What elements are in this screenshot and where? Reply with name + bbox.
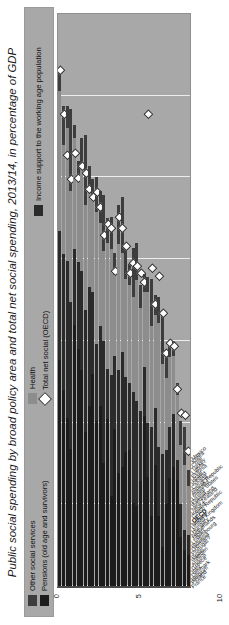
bar-segment — [139, 285, 142, 308]
bar-segment — [143, 292, 146, 367]
bar-segment — [176, 395, 179, 460]
bar-row — [106, 14, 109, 586]
bar-segment — [132, 392, 135, 503]
bar-segment — [66, 106, 69, 129]
bar-row — [124, 14, 127, 586]
bar-segment — [132, 297, 135, 392]
bar-segment — [176, 480, 179, 586]
bar-segment — [172, 356, 175, 415]
bar-segment — [183, 465, 186, 530]
bar-segment — [88, 287, 91, 406]
bar-segment — [161, 364, 164, 454]
bar-segment — [179, 504, 182, 537]
bar-segment — [102, 251, 105, 341]
bar-segment — [88, 406, 91, 586]
bar-segment — [102, 341, 105, 464]
bar-segment — [110, 375, 113, 496]
bar-segment — [135, 280, 138, 401]
bar-segment — [73, 325, 76, 586]
bar-row — [69, 14, 72, 586]
bar-segment — [124, 377, 127, 452]
bar-segment — [183, 428, 186, 466]
legend-diamond-icon — [38, 392, 52, 406]
bar-row — [165, 14, 168, 586]
bar-segment — [66, 261, 69, 418]
legend-item-total-net-social: Total net social (OECD) — [40, 311, 50, 404]
bar-segment — [121, 352, 124, 466]
category-axis: FranceFinlandBelgiumDenmarkItalyGreeceAu… — [190, 0, 229, 625]
bar-segment — [168, 357, 171, 427]
axis-tick-label: 0 — [52, 594, 61, 598]
bar-segment — [154, 315, 157, 408]
legend-item-income-support: Income support to the working age popula… — [34, 47, 43, 216]
bar-segment — [146, 423, 149, 477]
bar-segment — [62, 145, 65, 254]
bar-segment — [179, 537, 182, 586]
bar-row — [73, 14, 76, 586]
bar-segment — [165, 504, 168, 586]
bar-segment — [143, 416, 146, 586]
bar-segment — [106, 419, 109, 586]
bar-segment — [62, 390, 65, 586]
legend-swatch-icon — [28, 393, 37, 404]
bar-segment — [161, 547, 164, 586]
bar-segment — [150, 326, 153, 427]
bar-segment — [106, 369, 109, 420]
bar-segment — [95, 212, 98, 344]
bar-segment — [135, 401, 138, 506]
bar-segment — [117, 244, 120, 370]
bar-segment — [69, 449, 72, 586]
legend-item-other-social-services: Other social services — [28, 521, 37, 606]
bar-segment — [77, 181, 80, 263]
bar-row — [121, 14, 124, 586]
bar-row — [183, 14, 186, 586]
bar-segment — [157, 323, 160, 447]
legend-label: Income support to the working age popula… — [34, 47, 43, 201]
bar-segment — [95, 344, 98, 421]
bar-segment — [176, 460, 179, 480]
bar-segment — [121, 467, 124, 586]
chart-title: Public social spending by broad policy a… — [4, 0, 21, 625]
bar-segment — [84, 205, 87, 310]
bar-segment — [132, 503, 135, 586]
bar-segment — [168, 478, 171, 586]
bar-segment — [128, 450, 131, 586]
bar-segment — [117, 473, 120, 586]
legend-item-pensions: Pensions (old age and survivors) — [40, 480, 49, 606]
bar-segment — [139, 411, 142, 481]
bar-segment — [91, 194, 94, 292]
bar-segment — [91, 292, 94, 374]
bar-segment — [106, 243, 109, 369]
bar-segment — [84, 310, 87, 433]
bar-segment — [157, 297, 160, 323]
bar-row — [62, 14, 65, 586]
legend-swatch-icon — [34, 205, 43, 216]
bar-row — [128, 14, 131, 586]
bar-segment — [161, 454, 164, 547]
legend-label: Total net social (OECD) — [41, 311, 50, 390]
bar-segment — [146, 277, 149, 292]
bar-row — [132, 14, 135, 586]
legend-label: Health — [28, 367, 37, 389]
bar-segment — [165, 378, 168, 450]
bar-segment — [179, 421, 182, 446]
chart-canvas: Public social spending by broad policy a… — [0, 0, 229, 625]
bar-segment — [146, 477, 149, 586]
bar-segment — [154, 465, 157, 586]
bar-segment — [80, 163, 83, 271]
bar-row — [179, 14, 182, 586]
bar-segment — [172, 414, 175, 466]
axis-tick-label: 5 — [134, 594, 143, 598]
bar-segment — [80, 271, 83, 371]
legend-label: Pensions (old age and survivors) — [40, 480, 49, 591]
bar-segment — [77, 349, 80, 586]
bar-row — [88, 14, 91, 586]
bar-row — [102, 14, 105, 586]
bar-segment — [124, 279, 127, 377]
bar-segment — [73, 125, 76, 138]
bar-segment — [113, 356, 116, 430]
bar-row — [80, 14, 83, 586]
bar-segment — [179, 445, 182, 504]
bar-segment — [84, 432, 87, 586]
bar-segment — [135, 506, 138, 586]
